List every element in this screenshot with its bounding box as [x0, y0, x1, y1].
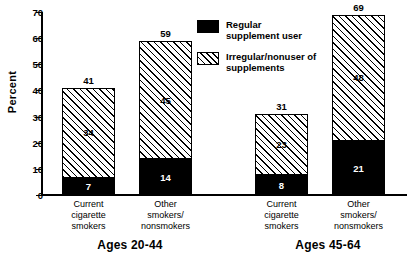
- bar-stack: 4821: [332, 15, 385, 195]
- x-category-line: Other: [319, 199, 398, 210]
- x-category-label: Currentcigarettesmokers: [49, 199, 128, 232]
- legend-swatch-solid-icon: [197, 20, 219, 33]
- bar-value-regular: 14: [139, 171, 192, 182]
- x-category-line: smokers: [49, 221, 128, 232]
- group-label: Ages 20-44: [60, 238, 200, 252]
- group-label: Ages 45-64: [258, 238, 398, 252]
- y-tick-label: 60: [15, 33, 43, 44]
- bar-value-irregular: 48: [332, 72, 385, 83]
- bar-value-regular: 8: [255, 179, 308, 190]
- bar-value-irregular: 23: [255, 139, 308, 150]
- bar-chart: Percent 010203040506070 3474145145923831…: [0, 0, 411, 261]
- x-category-line: Current: [49, 199, 128, 210]
- bar-stack: 347: [62, 88, 115, 195]
- bar-value-irregular: 45: [139, 94, 192, 105]
- legend: Regular supplement user Irregular/nonuse…: [197, 19, 316, 83]
- y-tick-label: 50: [15, 59, 43, 70]
- legend-item-regular: Regular supplement user: [197, 19, 316, 41]
- x-category-line: cigarette: [242, 210, 321, 221]
- y-tick-label: 30: [15, 111, 43, 122]
- x-category-label: Othersmokers/nonsmokers: [319, 199, 398, 232]
- y-tick-label: 70: [15, 7, 43, 18]
- legend-label-irregular: Irregular/nonuser of supplements: [226, 51, 316, 73]
- x-category-line: smokers/: [319, 210, 398, 221]
- y-tick-label: 0: [15, 190, 43, 201]
- bar-value-regular: 7: [62, 180, 115, 191]
- x-category-label: Currentcigarettesmokers: [242, 199, 321, 232]
- bar-total-label: 69: [332, 2, 385, 13]
- x-category-line: Other: [126, 199, 205, 210]
- bar-total-label: 41: [62, 75, 115, 86]
- x-category-line: nonsmokers: [126, 221, 205, 232]
- x-category-label: Othersmokers/nonsmokers: [126, 199, 205, 232]
- x-category-line: smokers: [242, 221, 321, 232]
- legend-item-irregular: Irregular/nonuser of supplements: [197, 51, 316, 73]
- x-category-line: smokers/: [126, 210, 205, 221]
- y-tick-label: 10: [15, 163, 43, 174]
- bar-value-irregular: 34: [62, 127, 115, 138]
- y-tick-label: 20: [15, 137, 43, 148]
- y-tick-label: 40: [15, 85, 43, 96]
- bar-stack: 4514: [139, 41, 192, 195]
- x-category-line: nonsmokers: [319, 221, 398, 232]
- bar-stack: 238: [255, 114, 308, 195]
- x-category-line: Current: [242, 199, 321, 210]
- legend-swatch-hatch-icon: [197, 52, 219, 65]
- legend-label-regular: Regular supplement user: [226, 19, 302, 41]
- bar-total-label: 59: [139, 28, 192, 39]
- x-category-line: cigarette: [49, 210, 128, 221]
- bar-value-regular: 21: [332, 162, 385, 173]
- bar-total-label: 31: [255, 101, 308, 112]
